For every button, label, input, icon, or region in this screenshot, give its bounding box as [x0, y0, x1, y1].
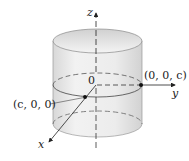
- cylinder-diagram: z y x 0 (0, 0, c) (c, 0, 0): [0, 0, 189, 161]
- y-axis-label: y: [171, 87, 179, 100]
- cylinder-top: [53, 29, 142, 53]
- point-c00-label: (c, 0, 0): [13, 98, 56, 111]
- point-c00: [83, 95, 87, 99]
- x-axis-label: x: [38, 138, 45, 151]
- origin-label: 0: [88, 74, 95, 87]
- point-00c-label: (0, 0, c): [144, 69, 187, 82]
- point-00c: [139, 83, 143, 87]
- cylinder-body: [53, 41, 142, 137]
- z-axis-label: z: [86, 6, 93, 19]
